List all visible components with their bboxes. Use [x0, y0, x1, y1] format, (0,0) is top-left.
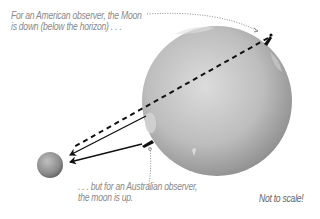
caption-line: For an American observer, the Moon — [11, 10, 141, 21]
australian-observer-icon — [142, 140, 154, 148]
australian-observer-caption: . . . but for an Australian observer, th… — [78, 181, 197, 203]
earth — [142, 26, 292, 176]
caption-line: the moon is up. — [78, 192, 197, 203]
moon — [37, 152, 63, 178]
arrow-to-moon-upper — [70, 116, 146, 155]
caption-line: . . . but for an Australian observer, — [78, 181, 197, 192]
american-observer-caption: For an American observer, the Moon is do… — [11, 10, 141, 32]
earth-moon-diagram: For an American observer, the Moon is do… — [0, 0, 320, 219]
not-to-scale-note: Not to scale! — [259, 193, 303, 204]
arrow-to-moon-lower — [70, 144, 142, 162]
caption-line: is down (below the horizon) . . . — [11, 21, 141, 32]
